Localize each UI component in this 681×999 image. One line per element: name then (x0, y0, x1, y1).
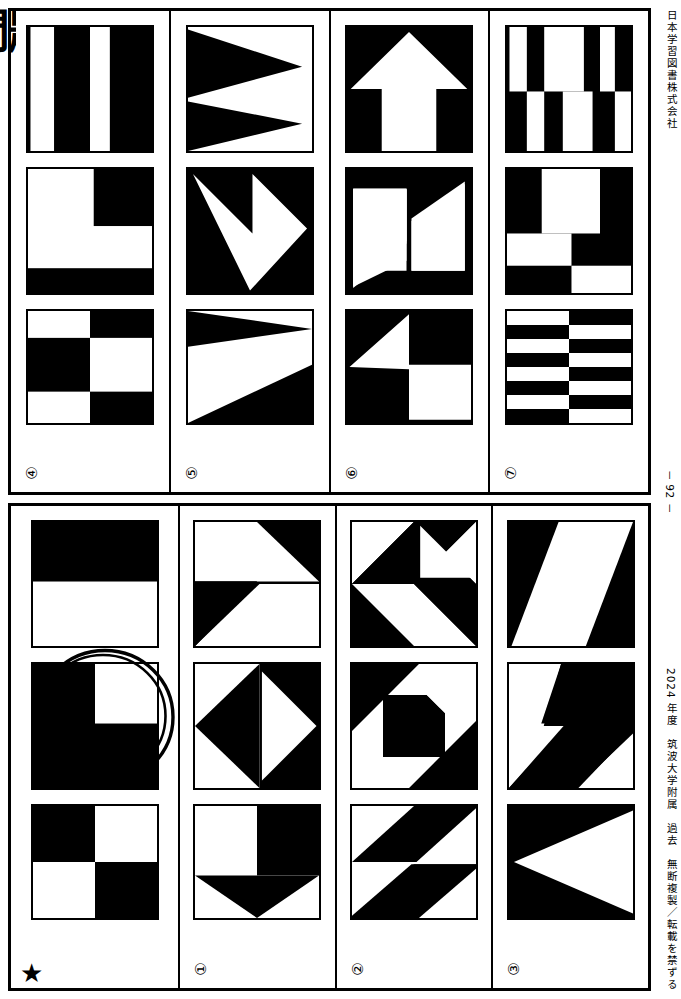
figure-eight-row-checker-stripes (505, 309, 633, 425)
figure-block-top: ④ (8, 8, 651, 495)
figure-checker-2x2 (31, 804, 159, 920)
panel-label-4: ④ (21, 462, 43, 484)
panel-label-1: ① (190, 958, 212, 980)
figure-two-wedges-diagonal (186, 309, 314, 425)
figure-white-down-arrow-on-black (186, 167, 314, 295)
panel-1[interactable]: ① (180, 506, 337, 988)
panel-1-figures (180, 520, 335, 920)
figure-two-right-pointing-triangles (186, 25, 314, 153)
figure-white-square-with-black-down-arrow (193, 804, 321, 920)
figure-pinwheel-four-triangles (350, 520, 478, 648)
panel-3-figures (493, 520, 648, 920)
figure-vertical-stripes-two-white-bars (26, 25, 154, 153)
panel-label-3: ③ (503, 958, 525, 980)
figure-two-opposing-triangles-quadrant (193, 520, 321, 648)
panel-label-star: ★ (20, 962, 42, 984)
figure-z-shaped-black-band (507, 662, 635, 790)
copyright-notice: 2024 年度 筑波大学附属 過去 無断複製／転載を禁ずる (664, 668, 679, 991)
panel-6-figures (331, 25, 489, 425)
figure-checker-offset-3x3 (26, 309, 154, 425)
figure-l-shape-white-with-black-corner (26, 167, 154, 295)
figure-offset-vertical-stripes (505, 25, 633, 153)
panel-5[interactable]: ⑤ (171, 11, 331, 492)
figure-block-bottom: ★ (8, 503, 651, 991)
worksheet-page: 問題 日本学習図書株式会社 － 92 － 2024 年度 筑波大学附属 過去 無… (0, 0, 681, 999)
panel-7-figures (490, 25, 648, 425)
panel-label-7: ⑦ (500, 462, 522, 484)
figure-blocky-step-pattern (505, 167, 633, 295)
panel-2[interactable]: ② (337, 506, 494, 988)
panel-2-figures (337, 520, 492, 920)
figure-white-left-arrow-on-black (345, 309, 473, 425)
panel-4[interactable]: ④ (11, 11, 171, 492)
panel-5-figures (171, 25, 329, 425)
figure-black-diamond-with-white-wedge (193, 662, 321, 790)
panel-6[interactable]: ⑥ (331, 11, 491, 492)
panel-4-figures (11, 25, 169, 425)
panel-label-2: ② (347, 958, 369, 980)
figure-white-parallelogram-on-black (507, 520, 635, 648)
figure-white-left-pointing-triangle (507, 804, 635, 920)
panel-label-6: ⑥ (341, 462, 363, 484)
figure-white-up-arrow-on-black (345, 25, 473, 153)
figure-top-half-black (31, 520, 159, 648)
figure-two-triangles-rotated (350, 804, 478, 920)
panel-3[interactable]: ③ (493, 506, 648, 988)
panel-star-figures (11, 520, 178, 920)
figure-black-square-white-top-right-quadrant (31, 662, 159, 790)
publisher-imprint: 日本学習図書株式会社 (664, 10, 679, 130)
figure-black-diagonal-band (345, 167, 473, 295)
page-number: － 92 － (663, 470, 678, 513)
panel-star[interactable]: ★ (11, 506, 180, 988)
panel-7[interactable]: ⑦ (490, 11, 648, 492)
panel-label-5: ⑤ (181, 462, 203, 484)
figure-black-square-in-diagonal-field (350, 662, 478, 790)
